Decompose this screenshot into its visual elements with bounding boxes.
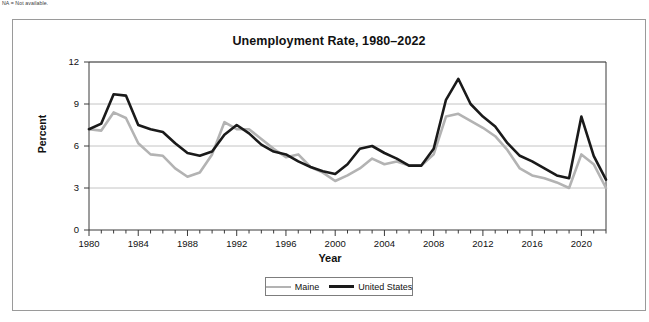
y-tick-label: 3 bbox=[55, 182, 79, 193]
y-tick-label: 9 bbox=[55, 98, 79, 109]
x-tick-label: 1984 bbox=[118, 238, 158, 249]
figure-frame: Unemployment Rate, 1980–2022 036912 1980… bbox=[12, 19, 646, 311]
series-line-united-states bbox=[89, 79, 606, 180]
y-axis-title: Percent bbox=[36, 89, 48, 179]
x-tick-label: 2004 bbox=[364, 238, 404, 249]
x-tick-label: 1980 bbox=[69, 238, 109, 249]
x-tick-label: 2016 bbox=[512, 238, 552, 249]
x-tick-label: 1988 bbox=[167, 238, 207, 249]
x-tick-label: 2000 bbox=[315, 238, 355, 249]
gridlines bbox=[89, 62, 606, 188]
x-axis-title: Year bbox=[13, 252, 647, 264]
legend-label-united-states: United States bbox=[358, 282, 412, 292]
legend-item-united-states: United States bbox=[329, 282, 412, 292]
legend-swatch-united-states-icon bbox=[329, 285, 354, 288]
x-tick-label: 2008 bbox=[414, 238, 454, 249]
y-tick-label: 6 bbox=[55, 140, 79, 151]
legend-item-maine: Maine bbox=[266, 282, 320, 292]
legend-swatch-maine-icon bbox=[266, 286, 291, 288]
legend-label-maine: Maine bbox=[295, 282, 320, 292]
series-lines bbox=[89, 79, 606, 188]
y-tick-label: 12 bbox=[55, 56, 79, 67]
plot-area: 036912 198019841988199219962000200420082… bbox=[13, 20, 647, 312]
footnote-text: NA = Not available. bbox=[2, 0, 48, 6]
axis-ticks bbox=[84, 62, 606, 236]
line-chart-svg bbox=[13, 20, 647, 312]
x-tick-label: 2012 bbox=[463, 238, 503, 249]
x-tick-label: 1996 bbox=[266, 238, 306, 249]
y-tick-label: 0 bbox=[55, 224, 79, 235]
x-tick-label: 1992 bbox=[217, 238, 257, 249]
x-tick-label: 2020 bbox=[561, 238, 601, 249]
chart-legend: Maine United States bbox=[265, 277, 413, 296]
series-line-maine bbox=[89, 112, 606, 188]
